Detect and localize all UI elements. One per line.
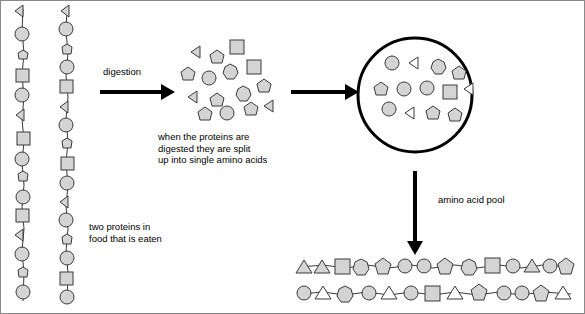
- pool-amino-acids: [374, 56, 473, 121]
- digestion-arrow: [100, 84, 175, 100]
- diagram-canvas: digestion when the proteins are digested…: [0, 0, 585, 314]
- digestion-label: digestion: [103, 66, 141, 78]
- amino-acid-pool-label: amino acid pool: [438, 194, 505, 206]
- absorption-arrow: [291, 84, 359, 100]
- two-proteins-label: two proteins in food that is eaten: [89, 221, 162, 244]
- diagram-graphics: [1, 1, 585, 314]
- amino-acid-pool-circle: [358, 38, 472, 152]
- new-protein-chain-1: [296, 258, 574, 275]
- free-amino-acids: [181, 40, 273, 120]
- pool-to-protein-arrow: [407, 171, 423, 255]
- digestion-explanation-label: when the proteins are digested they are …: [158, 131, 267, 166]
- protein-chain-1: [15, 5, 30, 301]
- new-protein-chain-2: [297, 284, 571, 302]
- protein-chain-2: [59, 5, 74, 304]
